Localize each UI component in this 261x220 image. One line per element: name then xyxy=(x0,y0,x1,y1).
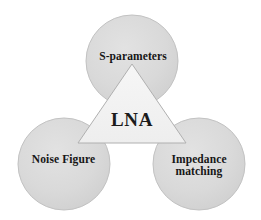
node-label-noise-figure: Noise Figure xyxy=(17,154,110,166)
node-label-s-parameters: S-parameters xyxy=(87,51,179,63)
center-label-lna: LNA xyxy=(99,110,165,129)
node-label-impedance-matching: Impedance matching xyxy=(152,154,246,177)
lna-concept-diagram: S-parameters Noise Figure Impedance matc… xyxy=(0,0,261,220)
